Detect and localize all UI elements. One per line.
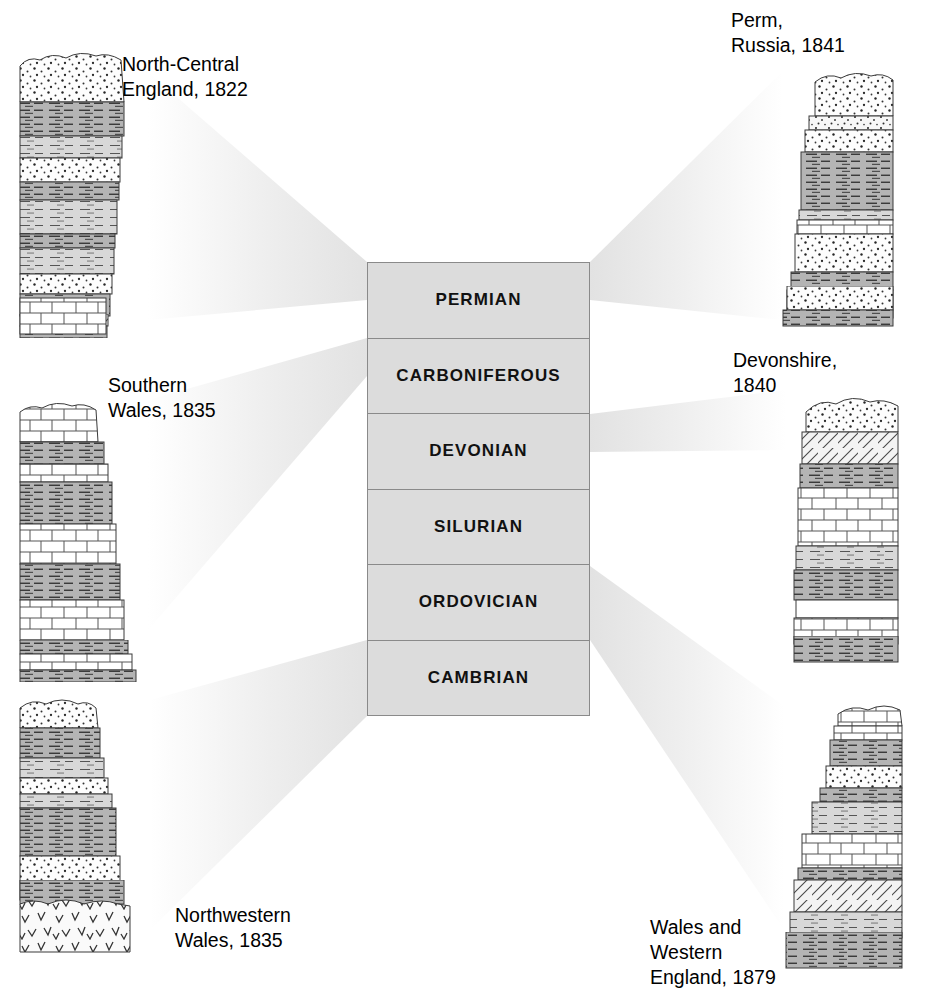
strat-column-southern-wales[interactable] xyxy=(18,398,148,660)
period-label: CAMBRIAN xyxy=(428,668,529,688)
period-cell-cambrian[interactable]: CAMBRIAN xyxy=(368,641,589,716)
wedge-north-central-england xyxy=(148,72,367,320)
caption-southern-wales: Southern Wales, 1835 xyxy=(108,373,216,423)
strat-column-wales-western-england-lower[interactable] xyxy=(772,932,912,976)
period-cell-silurian[interactable]: SILURIAN xyxy=(368,490,589,566)
period-label: ORDOVICIAN xyxy=(419,592,539,612)
period-column: PERMIAN CARBONIFEROUS DEVONIAN SILURIAN … xyxy=(367,262,590,716)
wedge-devonshire xyxy=(590,390,786,452)
strat-column-perm-russia[interactable] xyxy=(775,60,900,322)
strat-column-wales-western-england[interactable] xyxy=(772,700,912,952)
strat-column-devonshire[interactable] xyxy=(778,388,908,650)
period-label: DEVONIAN xyxy=(429,441,528,461)
figure-canvas: PERMIAN CARBONIFEROUS DEVONIAN SILURIAN … xyxy=(0,0,941,1001)
caption-northwestern-wales: Northwestern Wales, 1835 xyxy=(175,903,291,953)
caption-devonshire: Devonshire, 1840 xyxy=(733,348,837,398)
caption-perm-russia: Perm, Russia, 1841 xyxy=(731,8,845,58)
wedge-northwestern-wales xyxy=(150,640,367,930)
strat-column-devonshire-lower[interactable] xyxy=(778,636,908,668)
caption-wales-western-england: Wales and Western England, 1879 xyxy=(650,915,776,990)
strat-column-northwestern-wales[interactable] xyxy=(18,694,148,902)
period-cell-carboniferous[interactable]: CARBONIFEROUS xyxy=(368,339,589,415)
wedge-wales-western-england xyxy=(590,566,784,930)
period-label: SILURIAN xyxy=(434,517,523,537)
period-cell-permian[interactable]: PERMIAN xyxy=(368,263,589,339)
period-cell-ordovician[interactable]: ORDOVICIAN xyxy=(368,565,589,641)
strat-column-north-central-england-limestone[interactable] xyxy=(18,236,143,336)
strat-column-northwestern-wales-lower[interactable] xyxy=(18,880,148,960)
caption-north-central-england: North-Central England, 1822 xyxy=(122,52,248,102)
period-label: CARBONIFEROUS xyxy=(396,366,560,386)
strat-column-southern-wales-lower[interactable] xyxy=(18,640,148,682)
strat-column-perm-russia-lower[interactable] xyxy=(775,286,900,330)
period-cell-devonian[interactable]: DEVONIAN xyxy=(368,414,589,490)
period-label: PERMIAN xyxy=(435,290,521,310)
wedge-perm-russia xyxy=(590,72,782,320)
